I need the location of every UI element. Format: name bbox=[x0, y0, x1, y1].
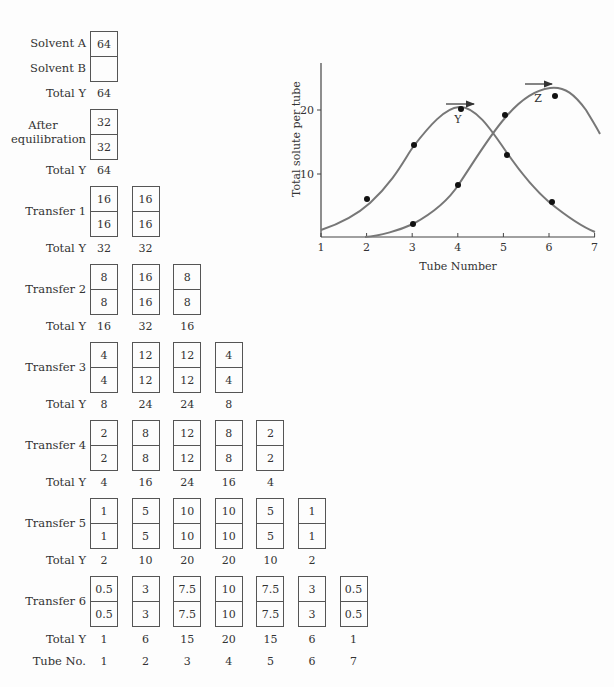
after-equilibration-label: After bbox=[0, 119, 86, 132]
tube-lower-phase: 32 bbox=[91, 134, 117, 159]
tube-box: 1616 bbox=[90, 186, 118, 237]
tube-upper-phase: 16 bbox=[91, 187, 117, 211]
tube-lower-phase: 12 bbox=[133, 367, 159, 392]
tube-upper-phase: 10 bbox=[216, 499, 242, 523]
tube-number: 1 bbox=[90, 655, 118, 668]
x-axis: Tube Number 1234567 bbox=[318, 233, 599, 273]
total-y-value: 16 bbox=[173, 320, 201, 333]
x-tick-label: 1 bbox=[318, 241, 325, 254]
total-y-label: Total Y bbox=[0, 398, 86, 411]
y-tick-10: 10 bbox=[300, 168, 314, 181]
total-y-label: Total Y bbox=[0, 242, 86, 255]
tube-box: 1212 bbox=[173, 420, 201, 471]
tube-lower-phase: 5 bbox=[133, 523, 159, 548]
tube-lower-phase: 7.5 bbox=[257, 601, 283, 626]
total-y-value: 2 bbox=[298, 554, 326, 567]
tube-lower-phase: 1 bbox=[299, 523, 325, 548]
tube-box: 1010 bbox=[173, 498, 201, 549]
total-y-label: Total Y bbox=[0, 320, 86, 333]
tube-number: 2 bbox=[132, 655, 160, 668]
tube-upper-phase: 8 bbox=[133, 421, 159, 445]
tube-box: 7.57.5 bbox=[256, 576, 284, 627]
total-y-value: 16 bbox=[215, 476, 243, 489]
tube-upper-phase: 16 bbox=[133, 265, 159, 289]
tube-lower-phase: 2 bbox=[257, 445, 283, 470]
tube-upper-phase: 10 bbox=[174, 499, 200, 523]
tube-upper-phase: 10 bbox=[216, 577, 242, 601]
transfer-label: Transfer 2 bbox=[0, 283, 86, 296]
tube-lower-phase: 16 bbox=[91, 211, 117, 236]
tube-lower-phase bbox=[91, 56, 117, 81]
total-y-value: 10 bbox=[256, 554, 284, 567]
tube-lower-phase: 3 bbox=[299, 601, 325, 626]
tube-upper-phase: 12 bbox=[133, 343, 159, 367]
y-tick-20: 20 bbox=[300, 104, 314, 117]
total-y-value: 8 bbox=[90, 398, 118, 411]
tube-upper-phase: 4 bbox=[91, 343, 117, 367]
total-y-value: 20 bbox=[173, 554, 201, 567]
tube-box: 11 bbox=[298, 498, 326, 549]
total-y-value: 20 bbox=[215, 554, 243, 567]
tube-upper-phase: 2 bbox=[91, 421, 117, 445]
tube-box: 1010 bbox=[215, 576, 243, 627]
tube-upper-phase: 32 bbox=[91, 110, 117, 134]
tube-upper-phase: 1 bbox=[299, 499, 325, 523]
x-tick-label: 5 bbox=[500, 241, 507, 254]
tube-upper-phase: 0.5 bbox=[341, 577, 367, 601]
total-y-value: 24 bbox=[173, 476, 201, 489]
tube-upper-phase: 12 bbox=[174, 343, 200, 367]
tube-box: 33 bbox=[298, 576, 326, 627]
tube-lower-phase: 0.5 bbox=[91, 601, 117, 626]
transfer-label: Transfer 6 bbox=[0, 595, 86, 608]
tube-upper-phase: 8 bbox=[216, 421, 242, 445]
total-y-value: 6 bbox=[132, 633, 160, 646]
tube-lower-phase: 5 bbox=[257, 523, 283, 548]
tube-lower-phase: 4 bbox=[91, 367, 117, 392]
total-y-label: Total Y bbox=[0, 476, 86, 489]
annotations: Y Z bbox=[446, 84, 552, 126]
tube-upper-phase: 7.5 bbox=[174, 577, 200, 601]
total-y-value: 1 bbox=[340, 633, 368, 646]
tube-box: 44 bbox=[90, 342, 118, 393]
tube-lower-phase: 7.5 bbox=[174, 601, 200, 626]
total-y-value: 24 bbox=[173, 398, 201, 411]
total-y-value: 15 bbox=[173, 633, 201, 646]
tube-lower-phase: 8 bbox=[174, 289, 200, 314]
tube-number: 6 bbox=[298, 655, 326, 668]
x-tick-label: 3 bbox=[409, 241, 416, 254]
tube-box: 22 bbox=[90, 420, 118, 471]
tube-lower-phase: 12 bbox=[174, 367, 200, 392]
tube-upper-phase: 16 bbox=[133, 187, 159, 211]
tube-box: 44 bbox=[215, 342, 243, 393]
total-y-value: 32 bbox=[132, 320, 160, 333]
data-points bbox=[364, 93, 558, 227]
after-equilibration-label: equilibration bbox=[0, 133, 86, 146]
tube-number: 5 bbox=[256, 655, 284, 668]
tube-number: 3 bbox=[173, 655, 201, 668]
tube-upper-phase: 0.5 bbox=[91, 577, 117, 601]
total-y-value: 6 bbox=[298, 633, 326, 646]
tube-box: 55 bbox=[256, 498, 284, 549]
total-y-value: 32 bbox=[132, 242, 160, 255]
tube-box: 7.57.5 bbox=[173, 576, 201, 627]
tube-upper-phase: 3 bbox=[133, 577, 159, 601]
tube-lower-phase: 3 bbox=[133, 601, 159, 626]
x-axis-label: Tube Number bbox=[419, 260, 497, 273]
total-y-value: 10 bbox=[132, 554, 160, 567]
total-y-value: 4 bbox=[256, 476, 284, 489]
tube-box: 88 bbox=[90, 264, 118, 315]
tube-lower-phase: 8 bbox=[216, 445, 242, 470]
tube-upper-phase: 12 bbox=[174, 421, 200, 445]
tube-lower-phase: 12 bbox=[174, 445, 200, 470]
y-axis-label: Total solute per tube bbox=[290, 81, 303, 197]
total-y-label: Total Y bbox=[0, 554, 86, 567]
tube-box: 11 bbox=[90, 498, 118, 549]
curve-z bbox=[365, 88, 600, 237]
total-y-value: 32 bbox=[90, 242, 118, 255]
total-y-value: 8 bbox=[215, 398, 243, 411]
tube-lower-phase: 10 bbox=[216, 523, 242, 548]
tube-upper-phase: 1 bbox=[91, 499, 117, 523]
tube-lower-phase: 8 bbox=[91, 289, 117, 314]
curve-label-y: Y bbox=[453, 113, 462, 126]
tube-upper-phase: 5 bbox=[257, 499, 283, 523]
